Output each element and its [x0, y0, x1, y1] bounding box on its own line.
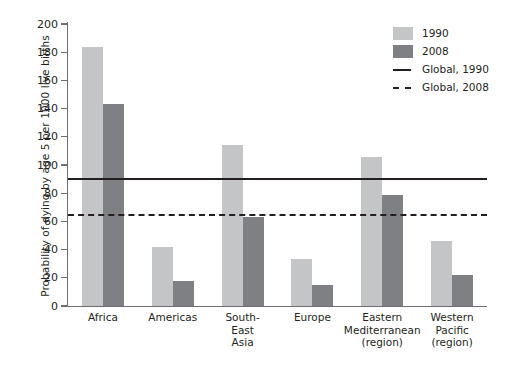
legend-solid-line-icon [393, 63, 413, 76]
y-axis-tick [61, 23, 67, 24]
x-axis-label-western-pacific-region-: WesternPacific(region) [403, 311, 501, 349]
legend-item-2008: 2008 [393, 42, 489, 60]
x-axis-line [67, 306, 487, 307]
y-axis-tick [61, 80, 67, 81]
y-axis-tick [61, 305, 67, 306]
legend-item-1990: 1990 [393, 24, 489, 42]
y-axis-tick-label: 200 [37, 19, 58, 30]
y-axis-tick-label: 120 [37, 131, 58, 142]
legend-item-global-2008: Global, 2008 [393, 78, 489, 96]
y-axis-tick [61, 249, 67, 250]
legend-swatch-1990-icon [393, 27, 413, 40]
legend-swatch-2008-icon [393, 45, 413, 58]
y-axis-tick [61, 136, 67, 137]
bar-2008-europe [312, 285, 333, 306]
bar-1990-americas [152, 247, 173, 306]
bar-2008-americas [173, 281, 194, 306]
y-axis-tick-label: 20 [44, 272, 58, 283]
y-axis-line [67, 22, 68, 307]
y-axis-tick-label: 40 [44, 244, 58, 255]
y-axis-tick [61, 108, 67, 109]
bar-chart: Probability of dying by age 5 per 1000 l… [0, 0, 510, 365]
bar-2008-africa [103, 104, 124, 306]
y-axis-tick [61, 277, 67, 278]
bar-2008-western-pacific-region- [452, 275, 473, 306]
y-axis-tick [61, 193, 67, 194]
y-axis-tick-label: 0 [51, 301, 58, 312]
bar-1990-africa [82, 47, 103, 306]
y-axis-tick-label: 60 [44, 216, 58, 227]
y-axis-tick-label: 140 [37, 103, 58, 114]
y-axis-tick-label: 80 [44, 188, 58, 199]
legend-item-global-1990: Global, 1990 [393, 60, 489, 78]
bar-1990-south-east-asia [222, 145, 243, 306]
y-axis-tick-label: 100 [37, 160, 58, 171]
reference-line-global-1990 [68, 178, 487, 180]
chart-legend: 19902008Global, 1990Global, 2008 [393, 24, 489, 96]
legend-label: 1990 [422, 27, 449, 39]
bar-1990-europe [291, 259, 312, 306]
y-axis-tick-label: 160 [37, 75, 58, 86]
legend-dashed-line-icon [393, 81, 413, 94]
reference-line-global-2008 [68, 214, 487, 216]
bar-1990-western-pacific-region- [431, 241, 452, 306]
y-axis-tick-label: 180 [37, 47, 58, 58]
y-axis-tick [61, 221, 67, 222]
bar-2008-eastern-mediterranean-region- [382, 195, 403, 306]
legend-label: Global, 1990 [422, 63, 489, 75]
legend-label: Global, 2008 [422, 81, 489, 93]
legend-label: 2008 [422, 45, 449, 57]
y-axis-tick [61, 52, 67, 53]
bar-2008-south-east-asia [243, 217, 264, 306]
y-axis-tick [61, 164, 67, 165]
